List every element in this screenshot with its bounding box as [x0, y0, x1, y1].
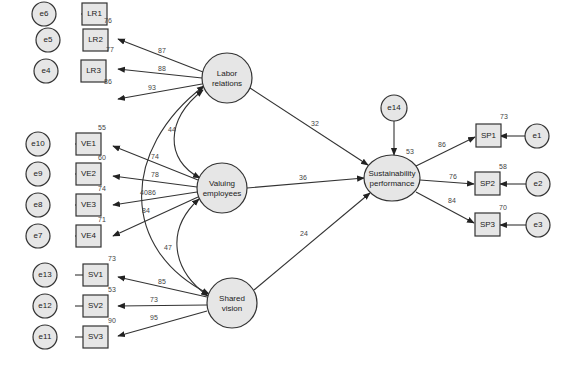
svg-text:76: 76 [449, 173, 457, 180]
svg-text:76: 76 [104, 17, 112, 24]
error-e14: e14 [381, 95, 407, 121]
error-e6: e6 [32, 2, 56, 26]
svg-text:36: 36 [299, 174, 307, 181]
svg-text:85: 85 [158, 278, 166, 285]
indicator-SP3: SP370 [475, 204, 507, 236]
latent-valuing-employees: Valuing employees [197, 163, 247, 213]
svg-text:86: 86 [104, 78, 112, 85]
svg-text:53: 53 [406, 148, 414, 155]
svg-text:58: 58 [499, 163, 507, 170]
indicator-LR3: LR386 [81, 60, 112, 85]
error-e5: e5 [36, 28, 60, 52]
latent-labor-relations: Labor relations [202, 53, 252, 103]
svg-text:73: 73 [500, 113, 508, 120]
svg-text:LR2: LR2 [88, 35, 103, 44]
svg-text:74: 74 [151, 153, 159, 160]
indicator-SP2: SP258 [475, 163, 507, 195]
latent-shared-vision: Shared vision [207, 278, 257, 328]
indicator-LR2: LR277 [83, 29, 114, 53]
error-e10: e10 [26, 132, 50, 156]
svg-text:70: 70 [499, 204, 507, 211]
svg-text:VE2: VE2 [81, 169, 97, 178]
svg-text:24: 24 [300, 230, 308, 237]
error-e12: e12 [33, 294, 57, 318]
svg-text:77: 77 [106, 46, 114, 53]
svg-text:84: 84 [448, 197, 456, 204]
indicators-right: SP173 SP258 SP370 86 76 84 [438, 113, 508, 236]
indicator-SV1: SV173 [83, 255, 116, 286]
svg-text:55: 55 [98, 124, 106, 131]
indicator-SP1: SP173 [476, 113, 508, 147]
svg-text:employees: employees [203, 189, 242, 198]
svg-text:73: 73 [108, 255, 116, 262]
svg-text:60: 60 [98, 154, 106, 161]
svg-text:SP2: SP2 [480, 179, 496, 188]
svg-text:Valuing: Valuing [209, 179, 235, 188]
svg-text:e11: e11 [39, 332, 52, 341]
svg-text:SV3: SV3 [88, 332, 104, 341]
svg-text:e8: e8 [34, 200, 43, 209]
path-labels: 32 36 24 [299, 120, 319, 237]
svg-text:71: 71 [98, 216, 106, 223]
error-e13: e13 [33, 263, 57, 287]
svg-text:e1: e1 [533, 131, 542, 140]
svg-text:78: 78 [151, 171, 159, 178]
indicator-VE1: VE155 [76, 124, 106, 155]
svg-text:Shared: Shared [219, 294, 245, 303]
svg-text:SP1: SP1 [481, 131, 497, 140]
svg-text:e7: e7 [34, 231, 43, 240]
svg-text:e12: e12 [38, 301, 52, 310]
svg-text:LR1: LR1 [87, 9, 102, 18]
error-e11: e11 [33, 325, 57, 349]
loading-labels: 87 88 93 74 78 40 86 84 85 73 95 [140, 47, 166, 321]
svg-text:e2: e2 [534, 179, 543, 188]
svg-text:Labor: Labor [217, 69, 238, 78]
error-terms-left: e6 e5 e4 e10 e9 e8 e7 e13 e12 e11 [26, 2, 60, 349]
svg-text:Sustainability: Sustainability [368, 169, 415, 178]
indicator-VE2: VE260 [76, 154, 106, 185]
svg-text:vision: vision [222, 304, 242, 313]
svg-text:performance: performance [370, 179, 415, 188]
error-e8: e8 [26, 193, 50, 217]
svg-text:SP3: SP3 [480, 220, 496, 229]
indicator-VE3: VE374 [76, 185, 106, 216]
indicator-LR1: LR176 [82, 3, 112, 25]
svg-text:e13: e13 [38, 270, 52, 279]
loading-arrows [113, 39, 207, 336]
svg-text:40: 40 [140, 189, 148, 196]
svg-text:84: 84 [142, 207, 150, 214]
svg-text:86: 86 [148, 189, 156, 196]
svg-text:e3: e3 [534, 220, 543, 229]
svg-text:e9: e9 [34, 169, 43, 178]
svg-text:44: 44 [168, 126, 176, 133]
sem-diagram: e6 e5 e4 e10 e9 e8 e7 e13 e12 e11 LR176 … [0, 0, 575, 374]
svg-text:88: 88 [158, 65, 166, 72]
error-terms-right: e1 e2 e3 [525, 124, 550, 237]
indicator-VE4: VE471 [76, 216, 106, 247]
svg-text:e14: e14 [387, 103, 401, 112]
svg-text:47: 47 [164, 244, 172, 251]
svg-text:SV2: SV2 [88, 301, 104, 310]
svg-text:53: 53 [108, 286, 116, 293]
error-e4: e4 [34, 59, 58, 83]
sp-loading-arrows [416, 136, 527, 225]
error-e7: e7 [26, 224, 50, 248]
svg-text:VE3: VE3 [81, 200, 97, 209]
error-e9: e9 [26, 162, 50, 186]
error-e2: e2 [526, 172, 550, 196]
svg-text:32: 32 [311, 120, 319, 127]
indicators-left: LR176 LR277 LR386 VE155 VE260 VE374 VE47… [76, 3, 116, 348]
error-e1: e1 [525, 124, 549, 148]
svg-text:e5: e5 [44, 35, 53, 44]
indicator-SV2: SV253 [83, 286, 116, 317]
svg-text:SV1: SV1 [88, 270, 104, 279]
svg-text:LR3: LR3 [86, 66, 101, 75]
svg-text:relations: relations [212, 79, 242, 88]
svg-text:90: 90 [108, 317, 116, 324]
svg-text:74: 74 [98, 185, 106, 192]
svg-text:e6: e6 [40, 9, 49, 18]
svg-text:93: 93 [148, 84, 156, 91]
svg-text:e4: e4 [42, 66, 51, 75]
latent-sustainability-performance: Sustainability performance 53 [364, 148, 420, 201]
svg-text:73: 73 [150, 296, 158, 303]
